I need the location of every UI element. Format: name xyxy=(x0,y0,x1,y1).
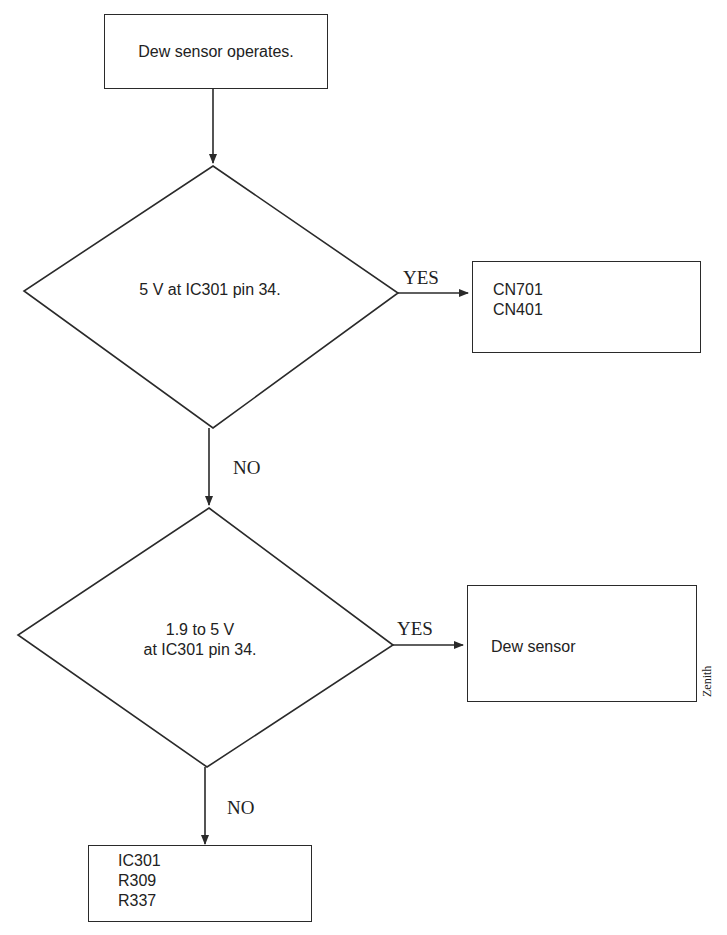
result2-box: Dew sensor xyxy=(467,585,697,702)
decision2-text: 1.9 to 5 V at IC301 pin 34. xyxy=(90,620,310,660)
flowchart: Dew sensor operates. 5 V at IC301 pin 34… xyxy=(0,0,727,935)
result3-line-2: R309 xyxy=(118,871,161,891)
decision1-no-label: NO xyxy=(233,457,260,479)
result1-line-1: CN701 xyxy=(493,280,543,300)
decision2-text-line-2: at IC301 pin 34. xyxy=(90,640,310,660)
flowchart-connectors xyxy=(0,0,727,935)
decision2-yes-label: YES xyxy=(397,618,433,640)
decision2-text-line-1: 1.9 to 5 V xyxy=(90,620,310,640)
result2-text: Dew sensor xyxy=(491,637,575,657)
result3-box: IC301 R309 R337 xyxy=(88,845,312,922)
decision1-text: 5 V at IC301 pin 34. xyxy=(100,280,320,300)
start-box: Dew sensor operates. xyxy=(104,14,328,89)
zenith-label: Zenith xyxy=(700,666,715,697)
decision1-yes-label: YES xyxy=(403,267,439,289)
start-text: Dew sensor operates. xyxy=(105,42,327,62)
result1-box: CN701 CN401 xyxy=(472,261,701,353)
decision2-no-label: NO xyxy=(227,797,254,819)
result3-line-3: R337 xyxy=(118,891,161,911)
result3-line-1: IC301 xyxy=(118,851,161,871)
result1-line-2: CN401 xyxy=(493,300,543,320)
